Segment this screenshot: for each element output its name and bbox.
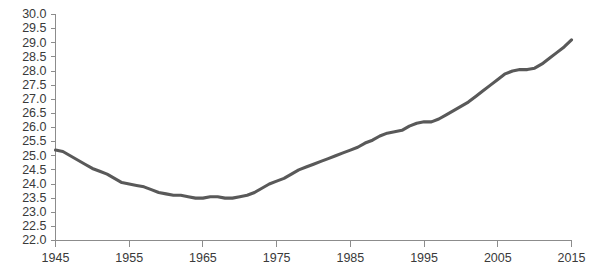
y-tick-label: 22.5 [22, 219, 46, 233]
y-tick-label: 30.0 [22, 7, 46, 21]
x-tick-label: 1995 [410, 251, 438, 265]
x-tick-label: 1945 [42, 251, 70, 265]
y-tick-label: 27.0 [22, 92, 46, 106]
y-tick-label: 24.5 [22, 163, 46, 177]
x-tick-label: 1985 [336, 251, 364, 265]
y-axis-tick-marks [51, 15, 56, 241]
x-tick-label: 1965 [189, 251, 217, 265]
y-tick-label: 25.0 [22, 149, 46, 163]
y-tick-label: 23.0 [22, 205, 46, 219]
y-tick-label: 26.0 [22, 120, 46, 134]
x-tick-label: 2015 [558, 251, 586, 265]
line-chart: 22.022.523.023.524.024.525.025.526.026.5… [0, 0, 603, 277]
y-tick-label: 29.5 [22, 21, 46, 35]
y-tick-label: 26.5 [22, 106, 46, 120]
x-tick-label: 1955 [115, 251, 143, 265]
y-tick-label: 25.5 [22, 134, 46, 148]
y-tick-label: 23.5 [22, 191, 46, 205]
y-tick-label: 29.0 [22, 36, 46, 50]
x-axis-tick-marks [56, 241, 572, 247]
x-tick-label: 1975 [263, 251, 291, 265]
data-series-line [56, 40, 572, 198]
y-tick-label: 22.0 [22, 233, 46, 247]
y-tick-label: 28.5 [22, 50, 46, 64]
y-tick-label: 24.0 [22, 177, 46, 191]
x-axis-tick-labels: 19451955196519751985199520052015 [42, 251, 586, 265]
y-tick-label: 28.0 [22, 64, 46, 78]
x-tick-label: 2005 [484, 251, 512, 265]
y-axis-tick-labels: 22.022.523.023.524.024.525.025.526.026.5… [22, 7, 46, 247]
y-tick-label: 27.5 [22, 78, 46, 92]
line-chart-container: 22.022.523.023.524.024.525.025.526.026.5… [0, 0, 603, 277]
